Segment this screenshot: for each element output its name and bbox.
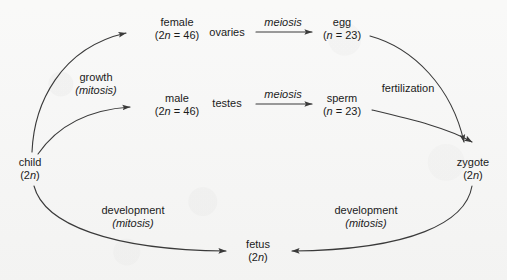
node-zygote: zygote (2n) bbox=[457, 156, 489, 181]
edge-label-fertilization: fertilization bbox=[382, 82, 435, 95]
node-child-name: child bbox=[19, 156, 42, 169]
edge-label-growth-line1: growth bbox=[75, 71, 117, 84]
node-egg-name: egg bbox=[323, 16, 361, 29]
node-female-name: female bbox=[155, 16, 199, 29]
edge-label-development-right-line2: (mitosis) bbox=[335, 216, 398, 229]
node-male: male (2n = 46) bbox=[155, 92, 199, 117]
life-cycle-diagram: child (2n) female (2n = 46) male (2n = 4… bbox=[0, 0, 507, 280]
node-egg: egg (n = 23) bbox=[323, 16, 361, 41]
edge-label-fertilization-line1: fertilization bbox=[382, 82, 435, 95]
node-sperm-ploidy: (n = 23) bbox=[323, 104, 361, 117]
node-sperm: sperm (n = 23) bbox=[323, 92, 361, 117]
node-fetus: fetus (2n) bbox=[246, 238, 270, 263]
edge-label-meiosis-sperm: meiosis bbox=[264, 88, 301, 101]
edge-label-testes-line1: testes bbox=[212, 97, 241, 110]
edge-label-ovaries-line1: ovaries bbox=[209, 26, 244, 39]
edge-label-development-left: development (mitosis) bbox=[102, 204, 165, 229]
node-fetus-name: fetus bbox=[246, 238, 270, 251]
edge-label-development-right: development (mitosis) bbox=[335, 204, 398, 229]
node-female-ploidy: (2n = 46) bbox=[155, 28, 199, 41]
node-child-ploidy: (2n) bbox=[19, 168, 42, 181]
edge-label-growth: growth (mitosis) bbox=[75, 71, 117, 96]
node-male-ploidy: (2n = 46) bbox=[155, 104, 199, 117]
edge-sperm-to-zygote bbox=[372, 110, 472, 142]
edge-label-ovaries: ovaries bbox=[209, 26, 244, 39]
node-zygote-ploidy: (2n) bbox=[457, 168, 489, 181]
edge-label-growth-line2: (mitosis) bbox=[75, 83, 117, 96]
node-child: child (2n) bbox=[19, 156, 42, 181]
edge-label-meiosis-sperm-line1: meiosis bbox=[264, 88, 301, 101]
node-egg-ploidy: (n = 23) bbox=[323, 28, 361, 41]
node-male-name: male bbox=[155, 92, 199, 105]
node-female: female (2n = 46) bbox=[155, 16, 199, 41]
edge-label-meiosis-egg: meiosis bbox=[264, 16, 301, 29]
edge-label-development-left-line1: development bbox=[102, 204, 165, 217]
node-zygote-name: zygote bbox=[457, 156, 489, 169]
edge-label-testes: testes bbox=[212, 97, 241, 110]
edge-child-to-male bbox=[38, 107, 130, 154]
node-sperm-name: sperm bbox=[323, 92, 361, 105]
edge-label-development-left-line2: (mitosis) bbox=[102, 216, 165, 229]
node-fetus-ploidy: (2n) bbox=[246, 250, 270, 263]
edge-label-meiosis-egg-line1: meiosis bbox=[264, 16, 301, 29]
edge-label-development-right-line1: development bbox=[335, 204, 398, 217]
